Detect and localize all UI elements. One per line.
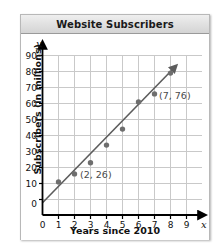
y-tick-label: 0 bbox=[31, 199, 37, 209]
y-tick-label: 10 bbox=[26, 179, 38, 189]
x-axis-title: Years since 2010 bbox=[21, 225, 209, 236]
data-point bbox=[136, 99, 141, 104]
page-title: Website Subscribers bbox=[56, 19, 173, 30]
point-annotation: (7, 76) bbox=[159, 90, 191, 101]
screenshot-root: Website Subscribers bbox=[0, 0, 223, 247]
point-annotation: (2, 26) bbox=[80, 169, 112, 180]
trend-line bbox=[43, 70, 173, 203]
y-axis-title: Subscribers (in millions) bbox=[32, 55, 43, 175]
scatter-plot-svg: 90 80 70 60 50 40 30 20 10 0 0 1 2 3 bbox=[21, 35, 209, 240]
data-point bbox=[168, 70, 173, 75]
chart-card: Website Subscribers bbox=[20, 14, 210, 240]
data-point bbox=[72, 171, 77, 176]
data-point bbox=[56, 179, 61, 184]
data-point bbox=[120, 126, 125, 131]
chart-title-bar: Website Subscribers bbox=[21, 15, 209, 34]
data-point bbox=[88, 160, 93, 165]
data-point bbox=[152, 91, 157, 96]
chart-plot-area: 90 80 70 60 50 40 30 20 10 0 0 1 2 3 bbox=[21, 35, 209, 240]
data-point bbox=[104, 142, 109, 147]
